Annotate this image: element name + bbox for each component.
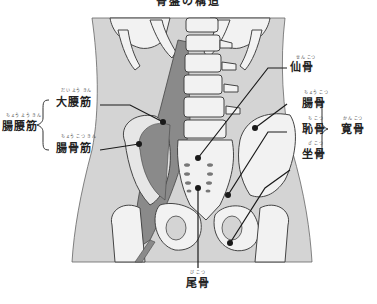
hip-bone-ruby: かん こつ [343,117,363,121]
label-hip-bone: 寛骨 [341,124,365,135]
iliopsoas-brace [37,100,49,150]
coccyx-ruby: び こつ [190,271,205,275]
iliacus-ruby: ちょう こつ きん [61,135,96,139]
psoas-major-ruby: だい よう きん [61,89,92,93]
sacrum-ruby: せん こつ [296,56,316,60]
label-coccyx: 尾骨 [186,278,210,289]
ischium-ruby: ざ こつ [308,142,323,146]
label-iliacus: 腸骨筋 [56,143,92,154]
label-ischium: 坐骨 [302,149,326,160]
label-psoas-major: 大腰筋 [56,97,92,108]
label-iliopsoas: 腸腰筋 [2,121,38,132]
iliopsoas-ruby: ちょう よう きん [6,114,41,118]
label-pubis: 恥骨 [302,124,326,135]
ilium-ruby: ちょう こつ [304,91,328,95]
label-ilium: 腸骨 [302,98,326,109]
pubis-ruby: ち こつ [308,117,323,121]
label-sacrum: 仙骨 [290,62,314,73]
